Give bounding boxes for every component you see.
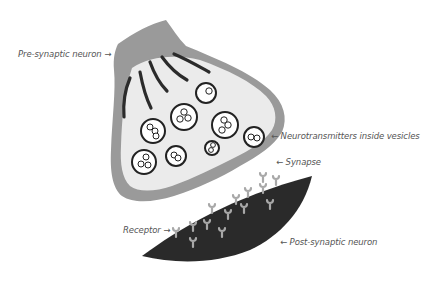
vesicle [166,146,186,166]
vesicle [141,119,165,143]
vesicle [244,127,264,147]
label-postsynaptic-neuron: ← Post-synaptic neuron [280,237,377,247]
label-presynaptic-neuron: Pre-synaptic neuron → [18,49,111,59]
label-neurotransmitters: ← Neurotransmitters inside vesicles [271,131,420,141]
vesicle [212,112,238,138]
vesicle [171,104,197,130]
vesicle [196,83,216,103]
vesicle [205,141,219,155]
vesicle [132,150,156,174]
label-synapse: ← Synapse [276,157,321,167]
label-receptor: Receptor → [123,225,170,235]
